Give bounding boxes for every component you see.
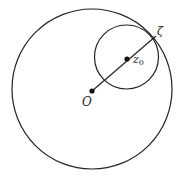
diagram-canvas: O z0 ζ <box>0 0 182 181</box>
point-O-dot <box>89 88 94 93</box>
geometry-figure: O z0 ζ <box>0 0 182 181</box>
label-zeta: ζ <box>157 25 164 38</box>
label-O: O <box>82 95 92 109</box>
point-z0-dot <box>124 56 129 61</box>
label-z0: z0 <box>132 53 144 67</box>
